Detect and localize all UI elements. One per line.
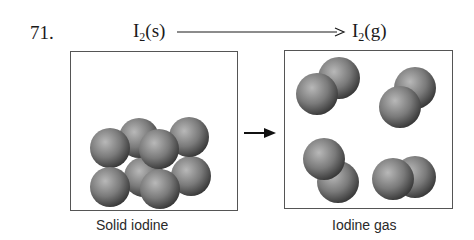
product-formula: I2(g) — [352, 20, 386, 42]
iodine-gas-panel — [284, 50, 453, 209]
reaction-arrow-icon — [177, 26, 347, 38]
transition-arrow-icon — [244, 127, 277, 139]
i2-molecule — [379, 67, 436, 128]
solid-iodine-caption: Solid iodine — [96, 217, 168, 233]
atom-sphere — [139, 129, 179, 169]
i2-molecule — [296, 57, 360, 115]
atom-sphere — [90, 128, 130, 168]
problem-number: 71. — [30, 22, 54, 44]
product-state: (g) — [364, 20, 386, 41]
solid-iodine-panel — [70, 51, 238, 211]
i2-molecule — [372, 156, 436, 200]
atom-sphere — [140, 169, 180, 209]
reactant-formula: I2(s) — [133, 20, 165, 42]
gas-molecules-illustration — [285, 51, 454, 210]
i2-molecule — [303, 138, 359, 203]
solid-lattice-illustration — [71, 52, 239, 212]
atom-sphere — [90, 167, 130, 207]
iodine-gas-caption: Iodine gas — [332, 217, 397, 233]
reactant-state: (s) — [145, 20, 165, 41]
